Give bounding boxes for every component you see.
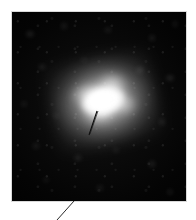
astronomical-image-panel — [12, 12, 186, 201]
caption-text — [12, 203, 186, 220]
figure-root — [0, 0, 196, 220]
object-marker-tick — [12, 12, 186, 201]
